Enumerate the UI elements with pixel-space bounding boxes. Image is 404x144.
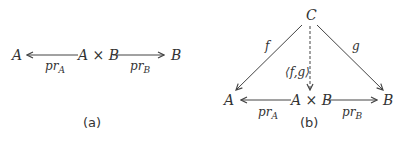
- label-pr-a: prA: [45, 59, 65, 75]
- node-b-center: A × B: [289, 92, 332, 108]
- node-a-left: A: [10, 47, 22, 63]
- label-b-pr-b: prB: [342, 105, 362, 121]
- caption-a: (a): [83, 115, 101, 130]
- node-b-left: A: [222, 92, 234, 108]
- label-f: f: [264, 39, 272, 53]
- node-b-top: C: [306, 7, 317, 23]
- label-pairing: ⟨f,g⟩: [285, 65, 310, 79]
- arrow-g: [317, 25, 383, 90]
- arrow-f: [236, 25, 302, 90]
- caption-b: (b): [300, 115, 318, 130]
- product-diagrams: A A × B B prA prB (a) C A A × B B f g ⟨f…: [0, 0, 404, 144]
- node-b-right: B: [382, 92, 393, 108]
- label-g: g: [352, 39, 360, 53]
- label-pr-b: prB: [130, 59, 150, 75]
- label-b-pr-a: prA: [258, 105, 278, 121]
- diagram-b: C A A × B B f g ⟨f,g⟩ prA prB (b): [222, 7, 393, 130]
- node-a-right: B: [170, 47, 181, 63]
- diagram-a: A A × B B prA prB (a): [10, 47, 181, 130]
- node-a-center: A × B: [76, 47, 119, 63]
